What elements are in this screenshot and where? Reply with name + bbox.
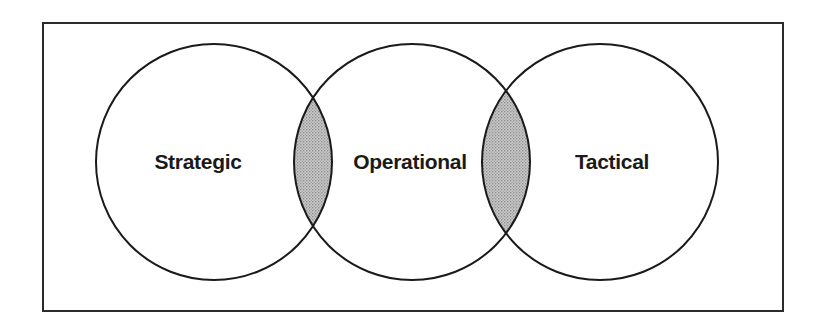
venn-diagram-figure: Strategic Operational Tactical (0, 0, 821, 329)
venn-diagram-canvas: Strategic Operational Tactical (0, 0, 821, 329)
label-tactical: Tactical (575, 150, 649, 173)
label-strategic: Strategic (154, 150, 242, 173)
label-operational: Operational (353, 150, 466, 173)
